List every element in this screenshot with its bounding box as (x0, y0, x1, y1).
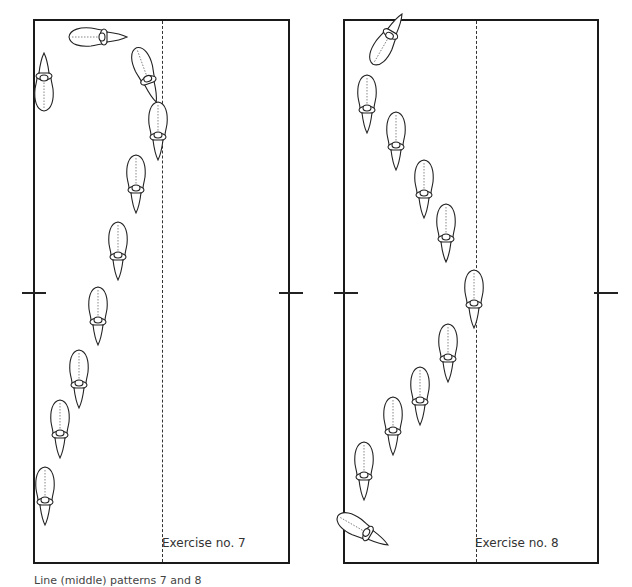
marker-tick-left (22, 292, 46, 294)
horse-top-view-icon (409, 365, 431, 425)
horse-top-view-icon (353, 440, 375, 500)
exercise-label: Exercise no. 7 (162, 536, 246, 550)
horse-top-view-icon (34, 465, 56, 525)
horse-top-view-icon (147, 100, 169, 160)
exercise-label: Exercise no. 8 (475, 536, 559, 550)
marker-tick-left (334, 292, 358, 294)
horse-top-view-icon (67, 26, 127, 48)
marker-tick-right (594, 292, 618, 294)
horse-top-view-icon (413, 158, 435, 218)
horse-top-view-icon (385, 110, 407, 170)
figure-caption: Line (middle) patterns 7 and 8 (34, 574, 201, 587)
horse-top-view-icon (463, 268, 485, 328)
marker-tick-right (279, 292, 303, 294)
horse-top-view-icon (435, 202, 457, 262)
horse-top-view-icon (68, 348, 90, 408)
horse-top-view-icon (107, 220, 129, 280)
horse-top-view-icon (49, 398, 71, 458)
horse-top-view-icon (382, 395, 404, 455)
horse-top-view-icon (33, 53, 55, 113)
horse-top-view-icon (356, 73, 378, 133)
horse-top-view-icon (125, 153, 147, 213)
horse-top-view-icon (437, 322, 459, 382)
horse-top-view-icon (87, 285, 109, 345)
